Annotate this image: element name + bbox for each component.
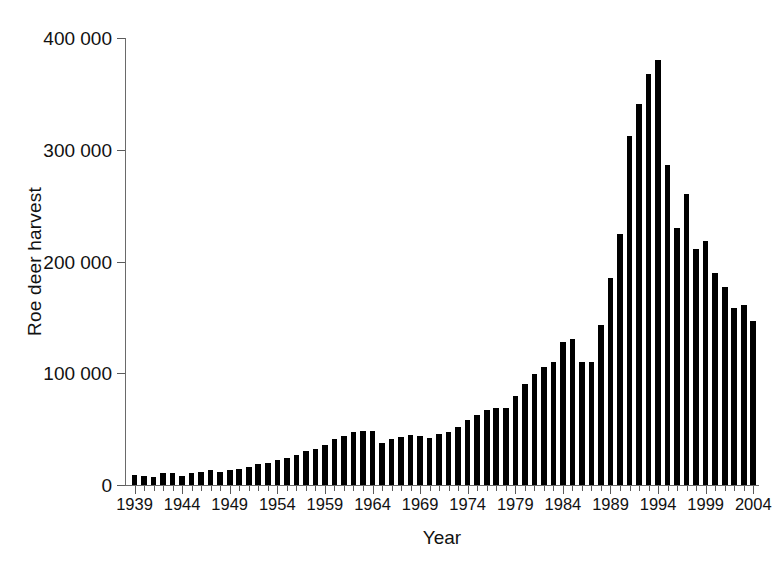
x-axis-tick-mark — [344, 486, 345, 491]
bar — [712, 273, 718, 485]
bar — [465, 420, 471, 485]
bar — [703, 241, 709, 485]
bar — [693, 249, 699, 485]
x-axis-tick-label: 1979 — [497, 496, 534, 513]
x-axis-tick-mark — [572, 486, 573, 491]
bar — [313, 449, 319, 485]
bar — [303, 451, 309, 485]
bar — [731, 308, 737, 485]
x-axis-title: Year — [125, 527, 759, 549]
bar — [370, 431, 376, 485]
x-axis-tick-mark — [163, 486, 164, 491]
x-axis-tick-label: 1994 — [640, 496, 677, 513]
x-axis-tick-mark — [468, 486, 469, 494]
bar — [389, 439, 395, 485]
x-axis-tick-mark — [525, 486, 526, 491]
x-axis-tick-mark — [620, 486, 621, 491]
x-axis-tick-mark — [591, 486, 592, 491]
x-axis-tick-label: 1954 — [259, 496, 296, 513]
y-axis-tick-mark — [117, 150, 125, 151]
bar — [589, 362, 595, 485]
bar — [579, 362, 585, 485]
bar-series — [0, 0, 775, 567]
bar — [636, 104, 642, 485]
bar — [351, 432, 357, 485]
bar — [750, 321, 756, 485]
x-axis-tick-mark — [668, 486, 669, 491]
x-axis-tick-mark — [154, 486, 155, 491]
x-axis-tick-mark — [192, 486, 193, 491]
bar — [322, 445, 328, 485]
bar — [436, 434, 442, 485]
x-axis-tick-mark — [277, 486, 278, 494]
x-axis-tick-mark — [296, 486, 297, 491]
bar — [236, 469, 242, 485]
x-axis-tick-mark — [506, 486, 507, 491]
bar — [294, 455, 300, 485]
y-axis-tick-mark — [117, 262, 125, 263]
bar — [455, 427, 461, 485]
x-axis-tick-label: 1944 — [164, 496, 201, 513]
x-axis-tick-mark — [201, 486, 202, 491]
bar — [398, 437, 404, 485]
bar — [560, 342, 566, 485]
bar — [598, 325, 604, 485]
bar — [493, 408, 499, 485]
bar — [265, 463, 271, 485]
x-axis-tick-mark — [230, 486, 231, 494]
x-axis-tick-mark — [639, 486, 640, 491]
bar — [141, 476, 147, 485]
bar — [484, 410, 490, 485]
x-axis-tick-mark — [430, 486, 431, 491]
x-axis-tick-mark — [677, 486, 678, 491]
x-axis-tick-mark — [182, 486, 183, 494]
bar — [522, 384, 528, 485]
x-axis-tick-mark — [353, 486, 354, 491]
bar — [341, 436, 347, 485]
x-axis-tick-mark — [420, 486, 421, 494]
x-axis-tick-mark — [220, 486, 221, 491]
bar — [532, 374, 538, 485]
x-axis-tick-mark — [173, 486, 174, 491]
y-axis-tick-mark — [117, 38, 125, 39]
x-axis-tick-mark — [706, 486, 707, 494]
bar — [551, 362, 557, 485]
x-axis-tick-label: 1959 — [307, 496, 344, 513]
x-axis-tick-mark — [630, 486, 631, 491]
x-axis-tick-label: 1969 — [402, 496, 439, 513]
x-axis-tick-mark — [534, 486, 535, 491]
x-axis-tick-mark — [544, 486, 545, 491]
bar — [665, 165, 671, 485]
x-axis-tick-mark — [487, 486, 488, 491]
x-axis-tick-mark — [287, 486, 288, 491]
x-axis-tick-mark — [211, 486, 212, 491]
roe-deer-harvest-chart: Roe deer harvest 0100 000200 000300 0004… — [0, 0, 775, 567]
x-axis-tick-label: 1984 — [545, 496, 582, 513]
bar — [617, 234, 623, 485]
x-axis-tick-mark — [563, 486, 564, 494]
bar — [570, 339, 576, 485]
bar — [227, 470, 233, 485]
x-axis-tick-mark — [601, 486, 602, 491]
bar — [684, 194, 690, 485]
bar — [655, 60, 661, 485]
x-axis-tick-mark — [325, 486, 326, 494]
bar — [474, 415, 480, 485]
bar — [627, 136, 633, 485]
y-axis-tick-mark — [117, 373, 125, 374]
bar — [208, 470, 214, 485]
bar — [427, 438, 433, 485]
x-axis-tick-mark — [725, 486, 726, 491]
x-axis-tick-label: 1989 — [592, 496, 629, 513]
x-axis-tick-mark — [382, 486, 383, 491]
x-axis-tick-mark — [363, 486, 364, 491]
bar — [417, 436, 423, 485]
x-axis-tick-mark — [401, 486, 402, 491]
bar — [541, 367, 547, 485]
x-axis-tick-mark — [268, 486, 269, 491]
bar — [275, 460, 281, 485]
x-axis-tick-mark — [687, 486, 688, 491]
bar — [674, 228, 680, 485]
x-axis-tick-mark — [306, 486, 307, 491]
bar — [360, 431, 366, 485]
